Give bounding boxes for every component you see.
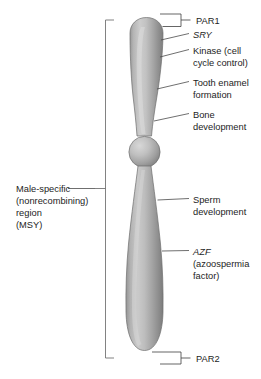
label-bone-development-line1: Bone — [193, 110, 215, 120]
label-sperm-development-line1: Sperm — [193, 195, 221, 205]
label-kinase-line1: Kinase (cell — [193, 46, 241, 56]
leader-sry — [161, 34, 189, 41]
leader-bone-development — [154, 114, 189, 122]
leader-kinase — [160, 50, 189, 58]
leader-azf — [162, 251, 189, 252]
leader-lines — [68, 34, 189, 252]
leader-tooth-enamel — [157, 82, 189, 90]
label-par2: PAR2 — [196, 354, 220, 364]
label-msy-line3: region — [16, 208, 42, 218]
msy-label-group: Male-specific (nonrecombining) region (M… — [16, 184, 88, 230]
par2-bracket — [152, 352, 191, 364]
y-chromosome-diagram: PAR1 SRY Kinase (cell cycle control) Too… — [0, 0, 261, 379]
chromosome-short-arm — [130, 18, 163, 137]
label-azf-line3: factor) — [193, 271, 219, 281]
label-azf-line1: AZF — [192, 247, 212, 257]
msy-bracket — [95, 20, 114, 358]
label-msy-line1: Male-specific — [16, 184, 71, 194]
leader-sperm-development — [158, 199, 190, 201]
label-par1: PAR1 — [196, 16, 220, 26]
label-bone-development-line2: development — [193, 122, 247, 132]
label-azf-line2: (azoospermia — [193, 259, 250, 269]
chromosome-long-arm — [126, 166, 163, 351]
label-sry: SRY — [193, 30, 213, 40]
chromosome-body — [126, 18, 163, 351]
centromere — [129, 136, 160, 167]
label-sperm-development-line2: development — [193, 207, 247, 217]
label-msy-line2: (nonrecombining) — [16, 196, 88, 206]
label-tooth-enamel-line1: Tooth enamel — [193, 78, 249, 88]
label-kinase-line2: cycle control) — [193, 58, 248, 68]
par1-bracket — [160, 14, 191, 27]
label-msy-line4: (MSY) — [16, 220, 42, 230]
right-label-group: PAR1 SRY Kinase (cell cycle control) Too… — [192, 16, 250, 364]
label-tooth-enamel-line2: formation — [193, 90, 232, 100]
